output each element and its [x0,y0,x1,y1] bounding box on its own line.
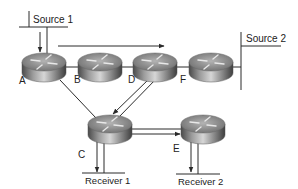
router-c[interactable] [88,115,132,144]
source1-segment: Source 1 [19,11,73,27]
router-a-label: A [19,75,26,86]
router-d-label: D [128,74,135,85]
source2-segment: Source 2 [241,32,286,90]
router-e-label: E [173,143,180,154]
router-a[interactable] [22,53,66,82]
router-c-label: C [78,149,85,160]
source2-label: Source 2 [246,33,286,44]
link-d-c [118,78,157,118]
router-d[interactable] [133,53,177,82]
link-a-c [60,80,96,118]
router-f[interactable] [189,53,233,82]
router-b[interactable] [78,53,122,82]
receiver1-label: Receiver 1 [85,175,130,186]
network-diagram: Source 1 Source 2 Receiver 1 Receiver 2 … [0,0,298,189]
router-f-label: F [180,74,186,85]
source1-label: Source 1 [33,14,73,25]
router-b-label: B [74,74,81,85]
receiver2-label: Receiver 2 [178,176,223,187]
router-e[interactable] [181,115,225,144]
